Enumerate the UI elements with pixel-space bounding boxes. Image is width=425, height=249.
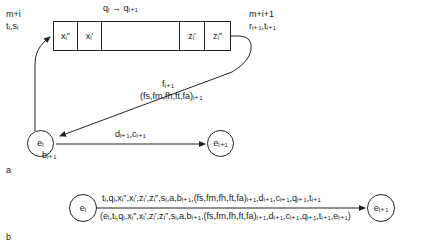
panel-a-left-label-line2: tᵢ,sᵢ bbox=[6, 21, 18, 31]
panel-b-edge-label-below: (eᵢ,tᵢ,qᵢ,xᵢ″,xᵢ′,zᵢ′,zᵢ″,sᵢ,a,bᵢ₊₁,(fs,… bbox=[100, 211, 351, 221]
panel-a-state-transition-label: qᵢ → qᵢ₊₁ bbox=[103, 3, 138, 13]
tape: xᵢ″ xᵢ′ zᵢ′ zᵢ″ bbox=[53, 21, 231, 51]
panel-a-left-label-line1: m+i bbox=[6, 9, 21, 19]
panel-a-right-label-line1: m+i+1 bbox=[249, 9, 274, 19]
panel-a-right-label-line2: rᵢ₊₁,tᵢ₊₁ bbox=[249, 21, 276, 31]
feedback-label-line1: fᵢ₊₁ bbox=[162, 79, 174, 89]
panel-b-letter: b bbox=[6, 232, 11, 242]
panel-a-edge-label-bottom: bᵢ₊₁ bbox=[42, 150, 56, 160]
panel-b-edge-label-above: tᵢ,qᵢ,xᵢ″,xᵢ′,zᵢ′,zᵢ″,sᵢ,a,bᵢ₊₁,(fs,fm,f… bbox=[102, 193, 321, 203]
feedback-label-line2: (fs,fm,fh,ft,fa)ᵢ₊₁ bbox=[140, 91, 202, 101]
tape-cell-z-prime-label: zᵢ′ bbox=[188, 31, 196, 41]
panel-b-node-e-i[interactable]: eᵢ bbox=[69, 194, 97, 222]
tape-cell-z-double-prime[interactable]: zᵢ″ bbox=[205, 22, 230, 50]
tape-cell-x-double-prime[interactable]: xᵢ″ bbox=[54, 22, 78, 50]
tape-cell-x-prime[interactable]: xᵢ′ bbox=[78, 22, 102, 50]
panel-a-node-e-i-plus-1[interactable]: eᵢ₊₁ bbox=[207, 130, 234, 157]
panel-a-letter: a bbox=[6, 165, 11, 175]
tape-cell-z-double-prime-label: zᵢ″ bbox=[213, 31, 222, 41]
panel-b-node-e-i-plus-1[interactable]: eᵢ₊₁ bbox=[367, 194, 395, 222]
tape-cell-blank[interactable] bbox=[102, 22, 180, 50]
feedback-line bbox=[60, 36, 251, 136]
panel-b-node-e-i-label: eᵢ bbox=[80, 203, 86, 213]
panel-b-node-e-i-plus-1-label: eᵢ₊₁ bbox=[374, 203, 388, 213]
head-input-line bbox=[35, 37, 50, 131]
tape-cell-z-prime[interactable]: zᵢ′ bbox=[180, 22, 205, 50]
panel-a-node-e-i-label: eᵢ bbox=[37, 138, 43, 148]
figure-canvas: m+i tᵢ,sᵢ m+i+1 rᵢ₊₁,tᵢ₊₁ qᵢ → qᵢ₊₁ xᵢ″ … bbox=[0, 0, 425, 249]
tape-cell-x-prime-label: xᵢ′ bbox=[86, 31, 94, 41]
panel-a-edge-label-top: dᵢ₊₁,cᵢ₊₁ bbox=[115, 129, 146, 139]
panel-a-node-e-i-plus-1-label: eᵢ₊₁ bbox=[213, 138, 227, 148]
tape-cell-x-double-prime-label: xᵢ″ bbox=[61, 31, 70, 41]
